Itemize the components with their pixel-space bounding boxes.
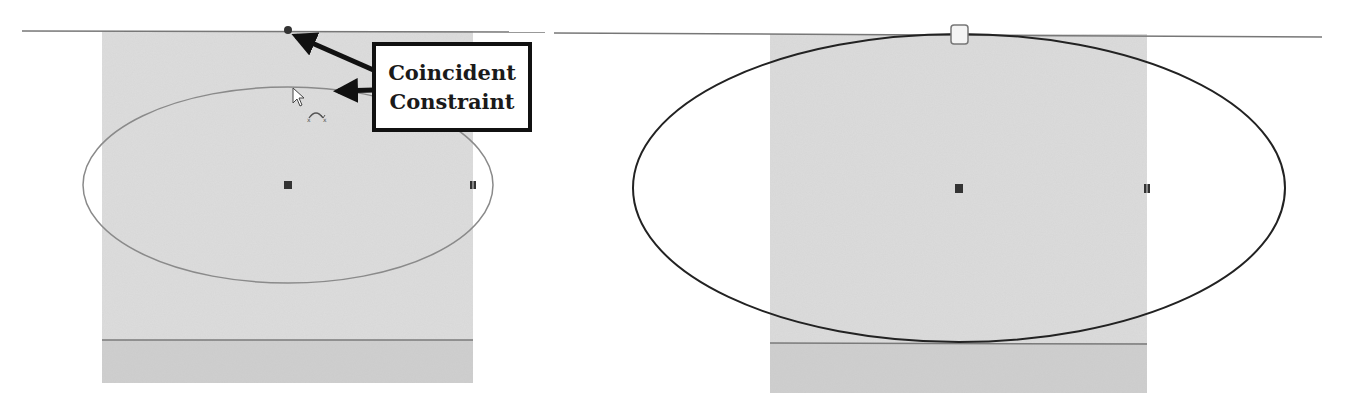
sketch-canvas-right <box>550 0 1348 414</box>
sketch-view-before: x x Coincident Constraint <box>0 0 550 414</box>
callout-line-1: Coincident <box>388 58 516 87</box>
coincident-constraint-icon[interactable] <box>951 25 968 44</box>
top-horizontal-line[interactable] <box>22 31 545 32</box>
callout-label-box: Coincident Constraint <box>372 42 532 132</box>
svg-text:x: x <box>307 116 311 123</box>
callout-line-2: Constraint <box>389 87 514 116</box>
callout-arrow-to-ellipse <box>338 90 374 91</box>
sketch-view-after <box>550 0 1348 414</box>
svg-text:x: x <box>323 116 327 123</box>
ellipse-center-point[interactable] <box>955 184 963 193</box>
bottom-edge-line <box>770 343 1147 344</box>
coincident-target-point[interactable] <box>284 26 292 34</box>
ellipse-center-point[interactable] <box>284 181 292 189</box>
